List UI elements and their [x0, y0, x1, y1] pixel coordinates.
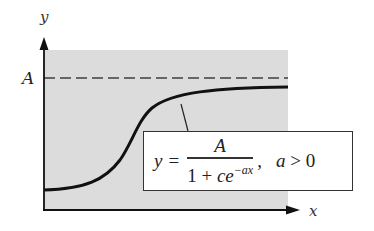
formula-lhs: y: [154, 150, 162, 172]
formula-box: y = A 1 + ce−ax , a > 0: [143, 131, 353, 191]
formula-separator: ,: [257, 150, 262, 172]
logistic-curve-diagram: y x A: [0, 0, 374, 231]
denominator-e: e: [225, 165, 233, 186]
denominator-exponent: −ax: [234, 163, 253, 177]
formula-numerator: A: [214, 135, 226, 157]
formula-denominator: 1 + ce−ax: [187, 159, 253, 187]
formula-equals: =: [168, 150, 179, 172]
y-axis-label: y: [39, 8, 49, 26]
y-axis-arrow-icon: [40, 37, 49, 50]
denominator-prefix: 1 +: [187, 165, 217, 186]
asymptote-label: A: [20, 68, 34, 88]
condition-var: a: [276, 150, 286, 171]
formula-fraction: A 1 + ce−ax: [187, 135, 253, 186]
condition-op: > 0: [285, 150, 315, 171]
formula-condition: a > 0: [276, 150, 315, 172]
x-axis-arrow-icon: [286, 206, 300, 215]
x-axis-label: x: [309, 202, 318, 220]
